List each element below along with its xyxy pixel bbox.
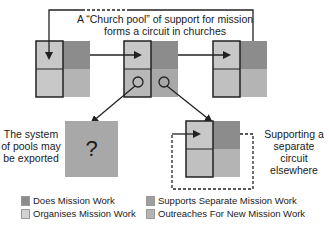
legend-swatch-light: [21, 209, 30, 219]
circuit-caption: A “Church pool” of support for mission f…: [70, 13, 260, 37]
export-caption-line3: be exported: [0, 152, 62, 164]
arrow-separate-circuit: [167, 86, 211, 121]
separate-circuit-caption-line2: separate circuit: [259, 140, 329, 164]
circuit-caption-line1: A “Church pool” of support for mission: [70, 13, 260, 25]
legend-swatch-dark: [21, 196, 30, 206]
church-block-1: [36, 41, 90, 97]
legend-item-supports-separate-mission-work: Supports Separate Mission Work: [146, 195, 297, 207]
legend-label: Supports Separate Mission Work: [158, 195, 297, 207]
legend-label: Outreaches For New Mission Work: [158, 208, 305, 220]
legend-label: Does Mission Work: [33, 195, 115, 207]
separate-circuit-caption: Supporting a separate circuit elsewhere: [259, 128, 329, 176]
circuit-caption-line2: forms a circuit in churches: [70, 25, 260, 37]
legend-label: Organises Mission Work: [33, 208, 136, 220]
export-caption-line2: of pools may: [0, 140, 62, 152]
legend-swatch-mid-light: [146, 209, 155, 219]
export-caption: The system of pools may be exported: [0, 128, 62, 164]
legend-item-outreaches-for-new-mission-work: Outreaches For New Mission Work: [146, 208, 305, 220]
church-block-3: [213, 41, 267, 97]
export-caption-line1: The system: [0, 128, 62, 140]
arrow-export-pool: [92, 86, 135, 122]
unknown-pool-label: ?: [65, 136, 118, 162]
separate-circuit-caption-line1: Supporting a: [259, 128, 329, 140]
separate-circuit-block: [186, 121, 240, 177]
legend-swatch-mid-dark: [146, 196, 155, 206]
separate-circuit-caption-line3: elsewhere: [259, 164, 329, 176]
legend-item-organises-mission-work: Organises Mission Work: [21, 208, 136, 220]
legend-item-does-mission-work: Does Mission Work: [21, 195, 115, 207]
